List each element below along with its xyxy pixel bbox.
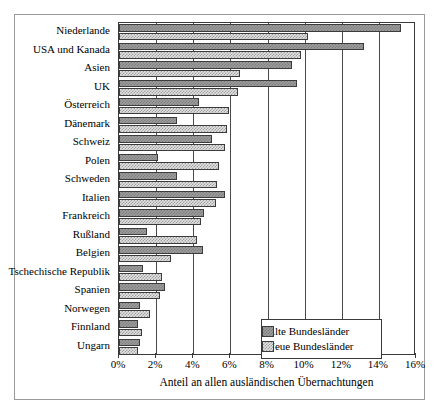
- bar-alte-bundeslaender: [119, 209, 204, 217]
- bar-neue-bundeslaender: [119, 162, 219, 170]
- bar-neue-bundeslaender: [119, 273, 162, 281]
- x-axis-tick-label: 10%: [294, 358, 314, 370]
- light-hatch-swatch-icon: [262, 341, 274, 352]
- chart-legend: Alte Bundesländer Neue Bundesländer: [261, 319, 382, 359]
- bar-row: [119, 116, 414, 135]
- bar-row: [119, 60, 414, 79]
- y-axis-label: Polen: [85, 155, 110, 166]
- y-axis-label: Österreich: [64, 99, 110, 110]
- y-axis-label: Frankreich: [62, 210, 110, 221]
- legend-label-neue: Neue Bundesländer: [267, 341, 353, 352]
- bar-alte-bundeslaender: [119, 135, 212, 143]
- y-axis-label: Italien: [82, 192, 110, 203]
- bar-row: [119, 153, 414, 172]
- y-axis-label: Belgien: [76, 247, 110, 258]
- legend-label-alte: Alte Bundesländer: [267, 326, 349, 337]
- y-axis-label: Spanien: [75, 284, 110, 295]
- y-axis-label: Rußland: [73, 229, 110, 240]
- x-axis-tick-label: 0%: [111, 358, 126, 370]
- plot-area: [118, 22, 415, 355]
- y-axis-label: Dänemark: [64, 118, 110, 129]
- bar-row: [119, 97, 414, 116]
- bar-neue-bundeslaender: [119, 292, 160, 300]
- bar-rows: [119, 23, 414, 354]
- legend-item-neue-bundeslaender: Neue Bundesländer: [267, 339, 376, 354]
- chart-figure: NiederlandeUSA und KanadaAsienUKÖsterrei…: [0, 0, 439, 419]
- bar-row: [119, 227, 414, 246]
- bar-alte-bundeslaender: [119, 302, 140, 310]
- y-axis-label: Ungarn: [77, 340, 110, 351]
- bar-neue-bundeslaender: [119, 347, 138, 355]
- legend-item-alte-bundeslaender: Alte Bundesländer: [267, 324, 376, 339]
- x-axis-tick-label: 8%: [259, 358, 274, 370]
- y-axis-label: Tschechische Republik: [8, 266, 110, 277]
- bar-neue-bundeslaender: [119, 33, 308, 41]
- bar-neue-bundeslaender: [119, 144, 225, 152]
- bar-row: [119, 42, 414, 61]
- x-axis-tick-label: 2%: [148, 358, 163, 370]
- y-axis-category-labels: NiederlandeUSA und KanadaAsienUKÖsterrei…: [0, 22, 114, 355]
- bar-neue-bundeslaender: [119, 51, 301, 59]
- y-axis-label: Asien: [84, 62, 110, 73]
- bar-alte-bundeslaender: [119, 117, 177, 125]
- bar-alte-bundeslaender: [119, 339, 140, 347]
- bar-alte-bundeslaender: [119, 24, 401, 32]
- bar-alte-bundeslaender: [119, 154, 158, 162]
- x-axis-tick-label: 4%: [185, 358, 200, 370]
- y-axis-label: Norwegen: [64, 303, 110, 314]
- bar-neue-bundeslaender: [119, 107, 229, 115]
- bar-row: [119, 23, 414, 42]
- bar-row: [119, 171, 414, 190]
- bar-alte-bundeslaender: [119, 61, 292, 69]
- bar-neue-bundeslaender: [119, 236, 197, 244]
- bar-neue-bundeslaender: [119, 125, 227, 133]
- y-axis-label: USA und Kanada: [33, 44, 110, 55]
- y-axis-label: UK: [94, 81, 110, 92]
- y-axis-label: Schweiz: [73, 136, 110, 147]
- x-axis-tick-label: 16%: [405, 358, 425, 370]
- y-axis-label: Finnland: [71, 321, 110, 332]
- bar-neue-bundeslaender: [119, 310, 150, 318]
- bar-neue-bundeslaender: [119, 329, 142, 337]
- x-axis-tick-labels: 0%2%4%6%8%10%12%14%16%: [0, 358, 439, 374]
- y-axis-label: Niederlande: [56, 25, 110, 36]
- bar-row: [119, 79, 414, 98]
- bar-alte-bundeslaender: [119, 172, 177, 180]
- bar-row: [119, 134, 414, 153]
- bar-row: [119, 245, 414, 264]
- bar-neue-bundeslaender: [119, 88, 238, 96]
- bar-neue-bundeslaender: [119, 255, 171, 263]
- bar-alte-bundeslaender: [119, 191, 225, 199]
- dark-hatch-swatch-icon: [262, 326, 274, 337]
- bar-alte-bundeslaender: [119, 228, 147, 236]
- bar-neue-bundeslaender: [119, 181, 217, 189]
- bar-alte-bundeslaender: [119, 265, 143, 273]
- bar-alte-bundeslaender: [119, 320, 138, 328]
- bar-alte-bundeslaender: [119, 80, 297, 88]
- bar-row: [119, 208, 414, 227]
- x-axis-title: Anteil an allen ausländischen Übernachtu…: [118, 376, 415, 389]
- x-axis-tick-label: 12%: [331, 358, 351, 370]
- bar-alte-bundeslaender: [119, 43, 364, 51]
- bar-alte-bundeslaender: [119, 246, 203, 254]
- bar-neue-bundeslaender: [119, 199, 216, 207]
- bar-row: [119, 190, 414, 209]
- bar-neue-bundeslaender: [119, 218, 201, 226]
- bar-row: [119, 264, 414, 283]
- x-axis-tick-label: 6%: [222, 358, 237, 370]
- x-axis-tick-label: 14%: [368, 358, 388, 370]
- y-axis-label: Schweden: [65, 173, 110, 184]
- bar-row: [119, 282, 414, 301]
- bar-alte-bundeslaender: [119, 98, 199, 106]
- bar-row: [119, 301, 414, 320]
- bar-neue-bundeslaender: [119, 70, 240, 78]
- bar-alte-bundeslaender: [119, 283, 165, 291]
